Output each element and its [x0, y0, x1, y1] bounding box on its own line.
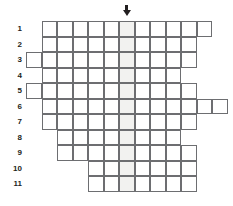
crossword-cell[interactable]: [197, 21, 213, 37]
crossword-cell[interactable]: [150, 130, 166, 146]
crossword-cell[interactable]: [57, 114, 73, 130]
crossword-cell[interactable]: [135, 37, 151, 53]
crossword-cell[interactable]: [73, 68, 89, 84]
crossword-cell[interactable]: [150, 114, 166, 130]
crossword-cell[interactable]: [73, 21, 89, 37]
crossword-cell[interactable]: [150, 161, 166, 177]
crossword-cell-highlighted[interactable]: [119, 83, 135, 99]
crossword-cell-highlighted[interactable]: [119, 52, 135, 68]
crossword-cell[interactable]: [73, 37, 89, 53]
crossword-cell[interactable]: [166, 145, 182, 161]
crossword-cell[interactable]: [166, 83, 182, 99]
crossword-cell[interactable]: [57, 68, 73, 84]
crossword-cell[interactable]: [135, 52, 151, 68]
crossword-cell[interactable]: [166, 176, 182, 192]
crossword-cell-highlighted[interactable]: [119, 161, 135, 177]
crossword-cell[interactable]: [73, 114, 89, 130]
crossword-cell[interactable]: [135, 68, 151, 84]
crossword-cell[interactable]: [104, 145, 120, 161]
crossword-cell[interactable]: [88, 37, 104, 53]
crossword-cell[interactable]: [181, 114, 197, 130]
crossword-cell[interactable]: [57, 99, 73, 115]
crossword-cell[interactable]: [150, 52, 166, 68]
crossword-cell[interactable]: [104, 161, 120, 177]
crossword-cell-highlighted[interactable]: [119, 114, 135, 130]
crossword-cell[interactable]: [104, 99, 120, 115]
crossword-cell[interactable]: [135, 145, 151, 161]
crossword-cell[interactable]: [88, 176, 104, 192]
crossword-cell[interactable]: [57, 145, 73, 161]
crossword-cell-highlighted[interactable]: [119, 99, 135, 115]
crossword-cell[interactable]: [104, 68, 120, 84]
crossword-cell[interactable]: [181, 99, 197, 115]
crossword-cell[interactable]: [57, 130, 73, 146]
crossword-cell[interactable]: [104, 21, 120, 37]
crossword-cell[interactable]: [135, 161, 151, 177]
crossword-cell[interactable]: [42, 21, 58, 37]
crossword-cell[interactable]: [104, 176, 120, 192]
crossword-cell[interactable]: [73, 130, 89, 146]
crossword-cell[interactable]: [150, 21, 166, 37]
crossword-cell[interactable]: [88, 161, 104, 177]
crossword-cell[interactable]: [150, 68, 166, 84]
crossword-cell[interactable]: [88, 52, 104, 68]
crossword-cell[interactable]: [166, 114, 182, 130]
crossword-cell[interactable]: [181, 21, 197, 37]
crossword-cell[interactable]: [73, 83, 89, 99]
crossword-cell[interactable]: [42, 68, 58, 84]
crossword-cell[interactable]: [135, 99, 151, 115]
crossword-cell-highlighted[interactable]: [119, 145, 135, 161]
crossword-cell[interactable]: [150, 176, 166, 192]
crossword-cell[interactable]: [104, 130, 120, 146]
crossword-cell[interactable]: [88, 99, 104, 115]
crossword-cell[interactable]: [42, 37, 58, 53]
crossword-cell-highlighted[interactable]: [119, 21, 135, 37]
crossword-cell[interactable]: [181, 83, 197, 99]
crossword-cell[interactable]: [166, 99, 182, 115]
crossword-cell-highlighted[interactable]: [119, 130, 135, 146]
crossword-cell[interactable]: [42, 114, 58, 130]
crossword-cell[interactable]: [26, 83, 42, 99]
crossword-cell-highlighted[interactable]: [119, 176, 135, 192]
crossword-cell[interactable]: [135, 21, 151, 37]
crossword-cell[interactable]: [73, 99, 89, 115]
crossword-cell[interactable]: [88, 145, 104, 161]
crossword-cell[interactable]: [104, 52, 120, 68]
crossword-cell[interactable]: [135, 114, 151, 130]
crossword-cell[interactable]: [73, 145, 89, 161]
crossword-cell[interactable]: [135, 83, 151, 99]
crossword-cell[interactable]: [42, 52, 58, 68]
crossword-cell[interactable]: [104, 83, 120, 99]
crossword-cell[interactable]: [88, 68, 104, 84]
crossword-cell[interactable]: [150, 83, 166, 99]
crossword-cell[interactable]: [26, 52, 42, 68]
crossword-cell[interactable]: [166, 21, 182, 37]
crossword-cell[interactable]: [150, 37, 166, 53]
crossword-cell[interactable]: [166, 52, 182, 68]
crossword-cell[interactable]: [135, 176, 151, 192]
crossword-cell[interactable]: [150, 145, 166, 161]
crossword-cell[interactable]: [42, 99, 58, 115]
crossword-cell[interactable]: [150, 99, 166, 115]
crossword-cell[interactable]: [181, 176, 197, 192]
crossword-cell[interactable]: [88, 130, 104, 146]
crossword-cell[interactable]: [166, 68, 182, 84]
crossword-cell[interactable]: [104, 114, 120, 130]
crossword-cell[interactable]: [88, 83, 104, 99]
crossword-cell[interactable]: [181, 37, 197, 53]
crossword-cell[interactable]: [212, 99, 228, 115]
crossword-cell[interactable]: [135, 130, 151, 146]
crossword-cell[interactable]: [181, 52, 197, 68]
crossword-cell[interactable]: [57, 21, 73, 37]
crossword-cell[interactable]: [166, 37, 182, 53]
crossword-cell[interactable]: [88, 21, 104, 37]
crossword-cell-highlighted[interactable]: [119, 68, 135, 84]
crossword-cell[interactable]: [166, 130, 182, 146]
crossword-cell[interactable]: [57, 37, 73, 53]
crossword-cell[interactable]: [197, 99, 213, 115]
crossword-cell[interactable]: [166, 161, 182, 177]
crossword-cell[interactable]: [57, 83, 73, 99]
crossword-cell[interactable]: [73, 52, 89, 68]
crossword-cell[interactable]: [88, 114, 104, 130]
crossword-cell[interactable]: [42, 83, 58, 99]
